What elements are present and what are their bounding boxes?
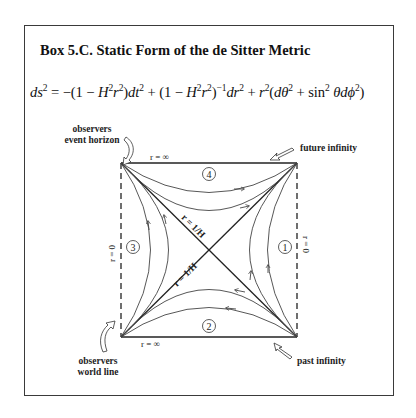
region-3-label: 3 xyxy=(127,241,140,254)
past-infinity-pointer-arrow xyxy=(274,343,292,359)
region-2-number: 2 xyxy=(207,321,212,332)
region-4-number: 4 xyxy=(207,169,212,180)
region-4-arrow xyxy=(240,206,249,208)
region-1-label: 1 xyxy=(279,241,292,254)
region-3-number: 3 xyxy=(131,242,136,253)
event-horizon-label-line1: observers xyxy=(72,124,111,134)
region-2-arrow xyxy=(235,290,245,292)
event-horizon-label-line2: event horizon xyxy=(64,135,120,145)
left-edge-label: r = 0 xyxy=(107,244,117,262)
penrose-diagram: 4 2 3 1 r = ∞ r = ∞ r = 0 r = 0 r = 1/H … xyxy=(0,0,416,418)
region-3-arrow xyxy=(164,215,166,224)
past-infinity-label: past infinity xyxy=(297,356,346,366)
region-2-label: 2 xyxy=(203,320,216,333)
future-infinity-label: future infinity xyxy=(300,143,357,153)
world-line-label-line1: observers xyxy=(78,356,117,366)
region-1-curve-inner xyxy=(250,163,298,337)
region-3-curve-inner xyxy=(121,163,169,337)
world-line-label-line2: world line xyxy=(78,367,119,377)
region-3-curve-outer xyxy=(121,163,151,337)
event-horizon-pointer-arrow xyxy=(123,137,133,165)
future-infinity-pointer-arrow xyxy=(270,148,294,160)
horizon-label-lower: r = 1/H xyxy=(171,260,199,288)
region-1-number: 1 xyxy=(283,242,288,253)
right-edge-label: r = 0 xyxy=(301,236,311,254)
world-line-pointer-arrow xyxy=(101,321,115,352)
region-4-label: 4 xyxy=(203,168,216,181)
region-3-arrow xyxy=(148,221,149,230)
horizon-label-upper: r = 1/H xyxy=(180,212,208,240)
region-1-arrow xyxy=(250,271,251,280)
top-edge-label: r = ∞ xyxy=(150,152,169,162)
bottom-edge-label: r = ∞ xyxy=(141,339,160,349)
